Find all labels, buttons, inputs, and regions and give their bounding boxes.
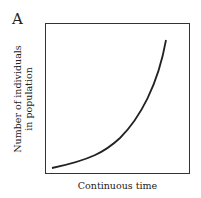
growth-curve	[0, 0, 201, 198]
x-axis-label: Continuous time	[45, 180, 190, 191]
